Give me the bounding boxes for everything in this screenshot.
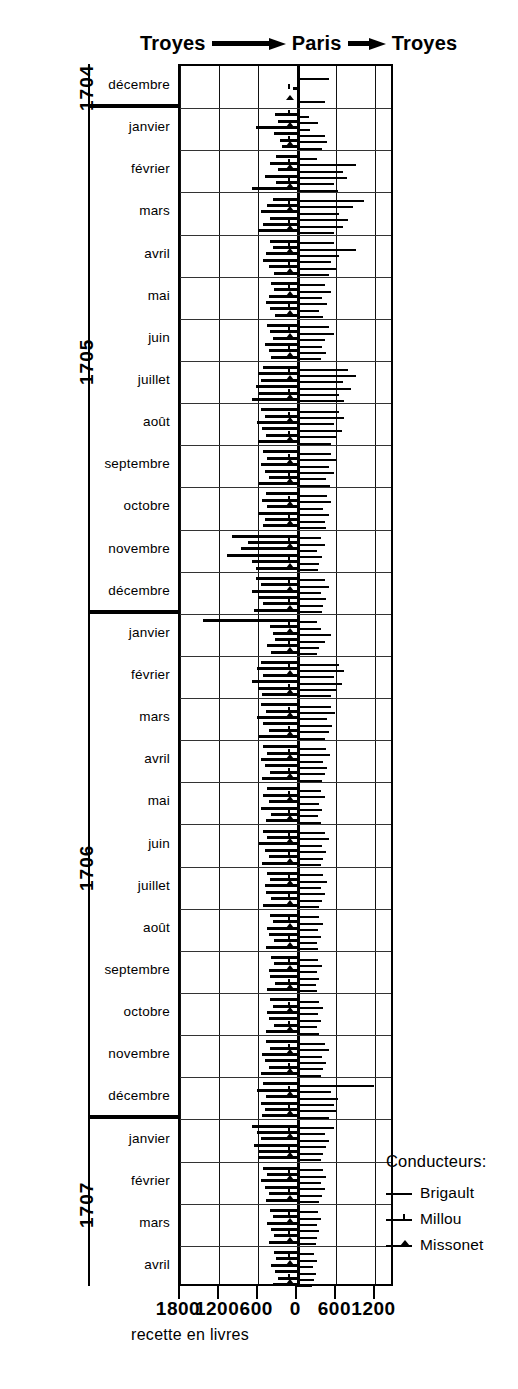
bar-outbound [262,427,297,430]
year-label: 1707 [76,1181,98,1227]
bar-outbound [261,661,297,664]
bar-return [297,1033,319,1035]
horizontal-gridline [180,1035,391,1036]
bar-outbound [261,703,297,706]
bar-return [297,164,356,166]
bar-outbound [269,933,298,936]
bar-outbound [252,1125,298,1128]
bar-return [297,683,341,685]
marker-millou [288,1170,290,1175]
bar-return [297,1085,374,1087]
horizontal-gridline [180,698,391,699]
legend-item[interactable]: Brigault [386,1180,518,1206]
bar-outbound [263,1167,297,1170]
bar-outbound [265,1186,298,1189]
bar-return [297,521,324,523]
bar-return [297,78,328,80]
year-bracket [88,106,178,612]
bar-return [297,1104,333,1106]
marker-millou [288,622,290,627]
marker-missonet [286,586,294,591]
marker-missonet [286,520,294,525]
marker-millou [288,473,290,478]
vertical-gridline [219,66,220,1284]
bar-return [297,485,330,487]
marker-missonet [286,95,294,100]
legend-marker-icon [386,1239,412,1251]
header-origin: Troyes [140,32,206,55]
bar-return [297,417,344,419]
legend-label: Brigault [420,1184,474,1202]
bar-return [297,478,326,480]
legend-item[interactable]: Millou [386,1206,518,1232]
bar-return [297,881,327,883]
marker-missonet [286,310,294,315]
bar-return [297,1260,317,1262]
bar-return [297,695,331,697]
marker-millou [288,496,290,501]
bar-return [297,718,327,720]
marker-missonet [286,1279,294,1284]
marker-missonet [286,248,294,253]
marker-millou [288,580,290,585]
marker-millou [288,1212,290,1217]
marker-missonet [286,563,294,568]
bar-outbound [256,385,298,388]
bar-return [297,171,343,173]
bar-outbound [263,745,297,748]
legend-label: Missonet [420,1236,484,1254]
year-bracket [88,1117,178,1286]
marker-millou [288,110,290,115]
marker-millou [288,136,290,141]
bar-return [297,381,343,383]
bar-return [297,858,323,860]
header-middle: Paris [292,32,342,55]
horizontal-gridline [180,192,391,193]
marker-millou [288,1021,290,1026]
year-bracket [88,612,178,1118]
bar-return [297,1117,328,1119]
bar-return [297,1224,317,1226]
bar-outbound [261,1102,297,1105]
bar-return [297,780,322,782]
bar-return [297,495,327,497]
bar-return [297,803,319,805]
bar-return [297,226,343,228]
bar-return [297,731,328,733]
legend-item[interactable]: Missonet [386,1232,518,1258]
bar-return [297,1007,323,1009]
marker-missonet [286,268,294,273]
bar-outbound [270,975,297,978]
marker-missonet [286,501,294,506]
marker-missonet [286,375,294,380]
bar-return [297,232,333,234]
legend-title: Conducteurs: [386,1152,518,1171]
marker-missonet [286,122,294,127]
marker-millou [288,852,290,857]
horizontal-gridline [180,993,391,994]
x-ticklabel: 1800 [156,1298,200,1320]
marker-missonet [286,1260,294,1265]
bar-return [297,738,324,740]
bar-return [297,948,318,950]
bar-return [297,796,324,798]
bar-outbound [265,764,298,767]
horizontal-gridline [180,909,391,910]
marker-millou [288,84,290,89]
marker-millou [288,201,290,206]
horizontal-gridline [180,782,391,783]
bar-return [297,1266,313,1268]
bar-return [297,984,315,986]
marker-missonet [286,459,294,464]
bar-return [297,394,339,396]
bar-return [297,621,317,623]
chart-header: Troyes Paris Troyes [140,28,480,58]
bar-return [297,641,324,643]
bar-return [297,748,326,750]
marker-millou [288,641,290,646]
bar-outbound [270,914,297,917]
bar-return [297,1243,315,1245]
bar-outbound [267,787,298,790]
bar-outbound [275,1270,297,1273]
horizontal-gridline [180,1246,391,1247]
